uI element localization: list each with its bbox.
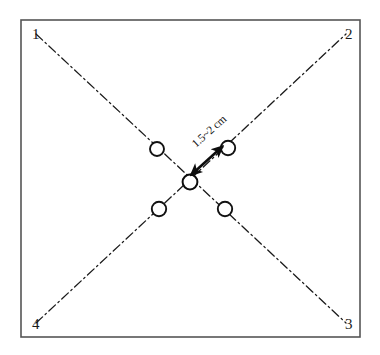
spacing-dimension-arrow bbox=[191, 146, 223, 175]
circle-marker-center bbox=[183, 175, 198, 190]
corner-label-1: 1 bbox=[32, 26, 40, 42]
diagram-root: 1 2 3 4 1.5~2 cm bbox=[0, 0, 380, 355]
corner-label-4: 4 bbox=[32, 316, 40, 332]
circle-marker-upper-left bbox=[150, 142, 164, 156]
circle-marker-lower-right bbox=[218, 202, 232, 216]
circle-marker-lower-left bbox=[152, 202, 166, 216]
corner-label-3: 3 bbox=[345, 316, 353, 332]
diagram-canvas: 1 2 3 4 1.5~2 cm bbox=[0, 0, 380, 355]
corner-label-2: 2 bbox=[345, 26, 353, 42]
circle-marker-upper-right bbox=[221, 141, 235, 155]
